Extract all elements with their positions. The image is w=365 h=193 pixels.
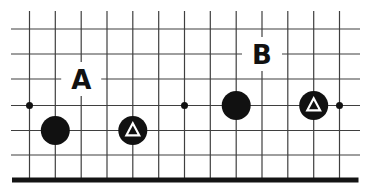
black-stone-triangle-marked	[118, 116, 147, 145]
star-point-3	[336, 102, 343, 109]
point-label-A: A	[71, 65, 91, 95]
black-stone	[41, 116, 70, 145]
go-diagram: AB	[0, 0, 365, 193]
go-board-svg: AB	[0, 0, 365, 193]
star-point-2	[181, 102, 188, 109]
black-stone	[222, 91, 251, 120]
star-point-1	[26, 102, 33, 109]
point-label-B: B	[252, 40, 272, 70]
black-stone-triangle-marked	[299, 91, 328, 120]
